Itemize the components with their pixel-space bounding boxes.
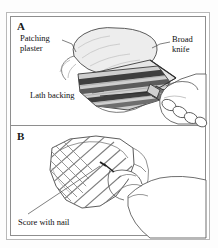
panel-letter-a: A <box>17 20 25 32</box>
label-patching-plaster: Patching plaster <box>20 33 50 53</box>
label-score-with-nail: Score with nail <box>18 217 69 227</box>
illustration-page: A B Patching plaster Broad knife Lath ba… <box>0 0 218 248</box>
cropped-text-remnant <box>128 0 208 10</box>
panel-divider <box>11 125 205 126</box>
panel-letter-b: B <box>17 130 24 142</box>
label-lath-backing: Lath backing <box>30 90 75 100</box>
label-broad-knife: Broad knife <box>172 34 193 54</box>
